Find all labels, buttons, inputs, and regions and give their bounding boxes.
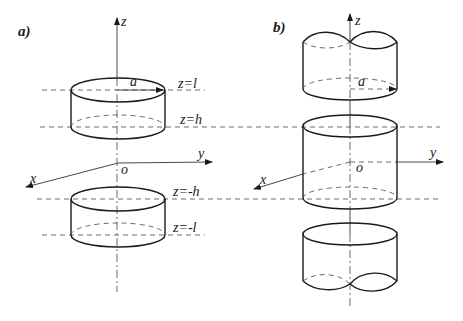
- z-axis-label-b: z: [354, 13, 361, 28]
- y-axis-label-a: y: [196, 146, 205, 161]
- x-axis-a: [26, 163, 118, 187]
- z-axis-label-a: z: [120, 14, 127, 29]
- x-axis-label-a: x: [29, 171, 37, 186]
- plane-label-z-neg-l: z=-l: [172, 220, 197, 235]
- diagram-stage: a) z y x o a z=l z=h z=-h z=-l: [0, 0, 463, 321]
- x-axis-label-b: x: [259, 172, 267, 187]
- panel-label-b: b): [273, 19, 286, 36]
- x-axis-b-hidden: [303, 162, 350, 174]
- lower-cylinder-a: [71, 187, 165, 247]
- plane-label-z-l: z=l: [177, 76, 197, 91]
- panel-b: b) z y x o a: [254, 13, 443, 309]
- radius-label-b: a: [358, 74, 365, 89]
- y-axis-label-b: y: [428, 145, 437, 160]
- cylinders-diagram: a) z y x o a z=l z=h z=-h z=-l: [0, 0, 463, 321]
- plane-label-z-neg-h: z=-h: [172, 184, 200, 199]
- panel-a: a) z y x o a z=l z=h z=-h z=-l: [18, 14, 440, 292]
- panel-label-a: a): [18, 23, 31, 40]
- upper-cylinder-a: [71, 78, 165, 139]
- plane-label-z-h: z=h: [179, 112, 202, 127]
- origin-label-a: o: [121, 162, 128, 177]
- origin-label-b: o: [356, 160, 363, 175]
- y-axis-a: [118, 162, 212, 163]
- radius-label-a: a: [130, 74, 137, 89]
